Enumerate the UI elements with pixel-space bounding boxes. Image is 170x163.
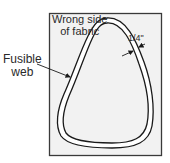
diagram: Wrong side of fabric Fusible web 1/4" <box>0 0 170 163</box>
label-line: web <box>3 66 42 79</box>
label-line: Wrong side <box>52 14 107 26</box>
label-line: of fabric <box>52 26 107 38</box>
label-fusible-web: Fusible web <box>3 53 42 79</box>
label-wrong-side-of-fabric: Wrong side of fabric <box>52 14 107 37</box>
label-quarter-inch: 1/4" <box>128 34 144 43</box>
